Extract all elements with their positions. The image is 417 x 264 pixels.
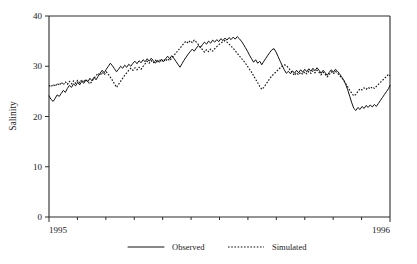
x-axis-ticks: 19951996 [49, 217, 391, 235]
x-tick-label: 1996 [372, 225, 391, 235]
y-tick-label: 10 [33, 162, 43, 172]
y-tick-label: 30 [33, 61, 43, 71]
salinity-timeseries-figure: 010203040 19951996 Salinity Observed Sim… [0, 0, 417, 264]
plot-background [49, 16, 390, 217]
y-axis-title: Salinity [8, 101, 18, 131]
y-tick-label: 40 [33, 11, 43, 21]
chart-canvas: 010203040 19951996 Salinity Observed Sim… [0, 0, 417, 264]
plot-area [49, 16, 390, 217]
legend: Observed Simulated [128, 242, 307, 252]
y-tick-label: 20 [33, 112, 43, 122]
y-axis-ticks: 010203040 [33, 11, 49, 222]
x-tick-label: 1995 [49, 225, 68, 235]
legend-label-observed: Observed [172, 242, 205, 252]
y-tick-label: 0 [38, 212, 43, 222]
legend-label-simulated: Simulated [272, 242, 307, 252]
